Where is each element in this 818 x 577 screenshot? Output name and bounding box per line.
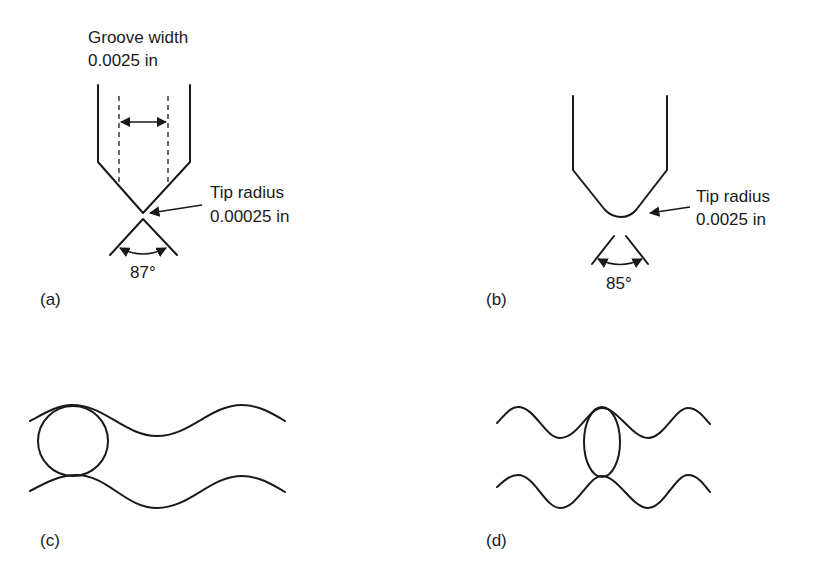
groove-d-bottom-wall bbox=[497, 475, 710, 508]
groove-width-value: 0.0025 in bbox=[88, 51, 158, 70]
panel-b: Tip radius 0.0025 in 85° (b) bbox=[486, 96, 770, 309]
stylus-b-outline bbox=[573, 96, 667, 217]
tip-radius-a-title: Tip radius bbox=[210, 183, 284, 202]
stylus-c-tip-circle bbox=[38, 406, 108, 476]
angle-b-wedge-right bbox=[626, 236, 648, 264]
angle-a-wedge bbox=[110, 219, 177, 255]
tip-radius-b-title: Tip radius bbox=[696, 187, 770, 206]
angle-a-arc-arrow bbox=[120, 248, 166, 254]
tip-radius-a-pointer-arrow bbox=[150, 205, 202, 213]
panel-d: (d) bbox=[486, 407, 710, 550]
angle-b-arc-arrow bbox=[598, 259, 642, 265]
tip-radius-a-value: 0.00025 in bbox=[210, 207, 289, 226]
panel-a: Groove width 0.0025 in Tip radius 0.0002… bbox=[40, 28, 289, 309]
panel-b-label: (b) bbox=[486, 290, 507, 309]
panel-c-label: (c) bbox=[40, 531, 60, 550]
groove-c-bottom-wall bbox=[30, 475, 285, 508]
panel-a-label: (a) bbox=[40, 290, 61, 309]
stylus-d-tip-ellipse bbox=[584, 407, 620, 477]
groove-c-top-wall bbox=[30, 405, 285, 436]
panel-c: (c) bbox=[30, 405, 285, 550]
angle-b-wedge-left bbox=[592, 236, 614, 264]
tip-radius-b-value: 0.0025 in bbox=[696, 210, 766, 229]
panel-d-label: (d) bbox=[486, 531, 507, 550]
stylus-a-outline bbox=[98, 85, 190, 213]
stylus-groove-diagram: Groove width 0.0025 in Tip radius 0.0002… bbox=[0, 0, 818, 577]
groove-width-title: Groove width bbox=[88, 28, 188, 47]
angle-a-value: 87° bbox=[130, 263, 156, 282]
angle-b-value: 85° bbox=[606, 274, 632, 293]
tip-radius-b-pointer-arrow bbox=[650, 207, 690, 213]
groove-d-top-wall bbox=[497, 407, 710, 438]
